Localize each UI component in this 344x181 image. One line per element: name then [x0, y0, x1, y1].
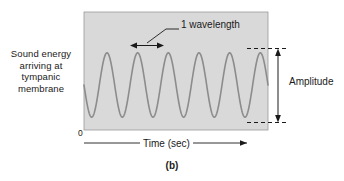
amplitude-annotation-label: Amplitude [289, 76, 333, 87]
wavelength-annotation-label: 1 wavelength [181, 19, 240, 30]
figure-caption: (b) [0, 160, 344, 171]
x-axis-label: Time (sec) [140, 138, 193, 149]
x-axis-origin-label: 0 [78, 128, 83, 138]
amplitude-arrow [275, 49, 281, 123]
sound-wave-figure: Sound energy arriving at tympanic membra… [0, 0, 344, 181]
plot-area-background [84, 12, 268, 130]
y-axis-label: Sound energy arriving at tympanic membra… [6, 48, 76, 94]
